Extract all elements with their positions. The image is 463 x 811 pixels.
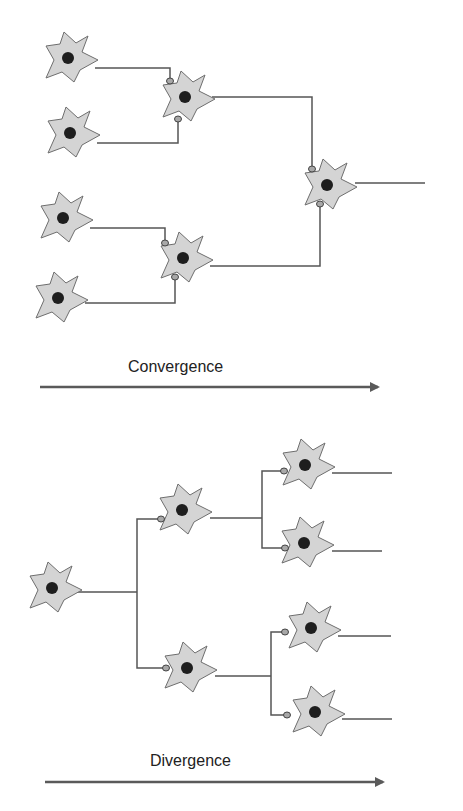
synapse-terminal bbox=[162, 240, 169, 246]
convergence-label: Convergence bbox=[128, 358, 223, 376]
divergence-neurons bbox=[30, 439, 345, 736]
convergence-diagram bbox=[85, 68, 425, 303]
neuron-output-1 bbox=[283, 439, 335, 489]
synapse-terminal bbox=[282, 629, 289, 635]
axon bbox=[90, 228, 165, 240]
neuron-output-4 bbox=[293, 686, 345, 736]
divergence-label: Divergence bbox=[150, 752, 231, 770]
neuron-intermediate-2 bbox=[161, 232, 213, 282]
synapse-terminal bbox=[175, 116, 182, 122]
neural-circuit-diagram bbox=[0, 0, 463, 811]
synapse-terminal bbox=[158, 516, 165, 522]
synapse-terminal bbox=[172, 274, 179, 280]
synapse-terminal bbox=[163, 665, 170, 671]
divergence-diagram bbox=[75, 471, 392, 719]
synapse-terminal bbox=[167, 78, 174, 84]
neuron-output-3 bbox=[289, 602, 341, 652]
axon-branch bbox=[137, 519, 163, 668]
axon bbox=[212, 97, 312, 166]
axon-branch bbox=[271, 632, 284, 715]
axon bbox=[85, 280, 175, 303]
neuron-intermediate-1 bbox=[160, 484, 212, 534]
axon bbox=[95, 68, 170, 78]
axon-branch bbox=[262, 471, 282, 548]
neuron-presynaptic-1 bbox=[46, 32, 98, 82]
synapse-terminal bbox=[281, 468, 288, 474]
neuron-input bbox=[30, 562, 82, 612]
synapse-terminal bbox=[284, 712, 291, 718]
neuron-presynaptic-2 bbox=[48, 107, 100, 157]
axon bbox=[97, 122, 178, 143]
neuron-presynaptic-3 bbox=[41, 192, 93, 242]
convergence-neurons bbox=[36, 32, 357, 322]
synapse-terminal bbox=[317, 201, 324, 207]
neuron-presynaptic-4 bbox=[36, 272, 88, 322]
neuron-output-2 bbox=[282, 517, 334, 567]
neuron-intermediate-2 bbox=[165, 642, 217, 692]
synapse-terminal bbox=[309, 166, 316, 172]
axon bbox=[210, 207, 320, 266]
synapse-terminal bbox=[282, 545, 289, 551]
